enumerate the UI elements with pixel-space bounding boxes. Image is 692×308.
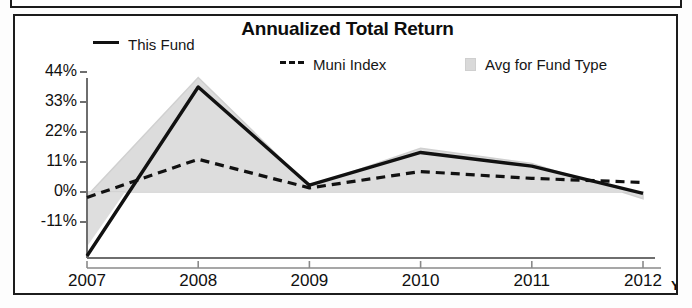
plot-svg [15, 16, 678, 295]
y-tick-label: -11% [21, 212, 77, 230]
y-tick-label: 33% [21, 92, 77, 110]
annualized-total-return-chart: Annualized Total Return This Fund Muni I… [13, 14, 678, 295]
x-tick-label: 2010 [402, 271, 440, 291]
screenshot-root: Annualized Total Return This Fund Muni I… [0, 0, 692, 308]
x-tick-label: 2011 [514, 271, 551, 291]
y-tick-label: 44% [21, 62, 77, 80]
x-tick-label: 2012 [624, 271, 662, 291]
y-tick-label: 0% [21, 182, 77, 200]
y-tick-label: 11% [21, 152, 77, 170]
x-tick-label: 2007 [68, 271, 106, 291]
x-tick-label: 2009 [290, 271, 328, 291]
y-tick-label: 22% [21, 122, 77, 140]
plot-area [15, 16, 678, 295]
document-top-box-fragment [10, 0, 682, 8]
x-tick-label: 2008 [179, 271, 217, 291]
ytd-axis-note: YTD [671, 278, 678, 293]
